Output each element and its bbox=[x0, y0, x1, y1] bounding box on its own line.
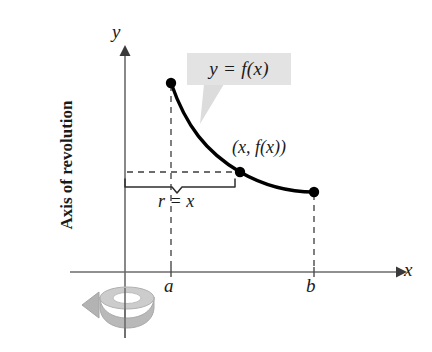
dashed-guides bbox=[127, 85, 314, 270]
y-axis-label: y bbox=[112, 22, 120, 41]
point-coordinate-label: (x, f(x)) bbox=[232, 138, 286, 156]
point-right-endpoint bbox=[309, 187, 319, 197]
x-tick-label-b: b bbox=[306, 276, 316, 295]
x-axis-label: x bbox=[404, 260, 412, 279]
rotation-arrowhead bbox=[82, 292, 99, 318]
x-tick-label-a: a bbox=[164, 276, 174, 295]
axis-of-revolution-label: Axis of revolution bbox=[57, 75, 77, 255]
callout-tail bbox=[200, 84, 224, 124]
y-axis-arrowhead bbox=[120, 45, 131, 56]
rotation-ring-hole bbox=[113, 293, 141, 304]
shell-method-diagram: y x a b r = x (x, f(x)) y = f(x) Axis of… bbox=[0, 0, 432, 352]
radius-label: r = x bbox=[158, 192, 194, 210]
rotation-arrow-icon bbox=[82, 287, 154, 338]
point-left-endpoint bbox=[166, 78, 176, 88]
function-callout-label: y = f(x) bbox=[187, 53, 291, 85]
point-x-fx bbox=[235, 167, 245, 177]
